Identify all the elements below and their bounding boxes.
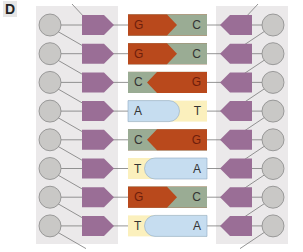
base-label-left: A (134, 104, 142, 118)
right-sugar-circle (262, 43, 284, 65)
base-label-left: G (134, 190, 143, 204)
base-label-left: C (134, 75, 143, 89)
left-sugar-circle (39, 43, 61, 65)
base-label-right: G (192, 75, 201, 89)
base-label-right: T (194, 104, 202, 118)
right-sugar-circle (262, 158, 284, 180)
base-label-left: T (134, 219, 142, 233)
right-sugar-circle (262, 129, 284, 151)
right-sugar-circle (262, 215, 284, 237)
dna-base-pair-diagram: GCGCCGATCGTAGCTA (0, 0, 303, 252)
base-label-left: C (134, 133, 143, 147)
left-sugar-circle (39, 71, 61, 93)
right-backbone-panel (216, 6, 288, 244)
left-sugar-circle (39, 186, 61, 208)
base-label-right: C (192, 190, 201, 204)
right-sugar-circle (262, 14, 284, 36)
left-sugar-circle (39, 14, 61, 36)
left-sugar-circle (39, 100, 61, 122)
base-label-left: G (134, 47, 143, 61)
base-label-right: A (193, 219, 201, 233)
right-sugar-circle (262, 71, 284, 93)
left-sugar-circle (39, 215, 61, 237)
base-label-right: A (193, 162, 201, 176)
base-label-right: C (192, 18, 201, 32)
left-sugar-circle (39, 129, 61, 151)
base-label-left: T (134, 162, 142, 176)
base-label-right: C (192, 47, 201, 61)
base-label-right: G (192, 133, 201, 147)
right-sugar-circle (262, 100, 284, 122)
right-sugar-circle (262, 186, 284, 208)
left-sugar-circle (39, 158, 61, 180)
base-label-left: G (134, 18, 143, 32)
